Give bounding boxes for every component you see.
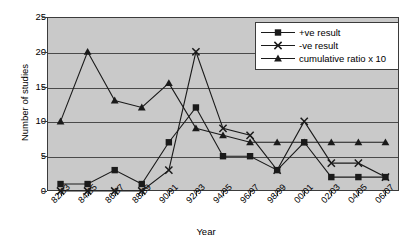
chart-root: Number of studies Year 0510152025 82/838…: [0, 0, 412, 247]
legend: +ve result-ve resultcumulative ratio x 1…: [255, 22, 399, 70]
data-point: [247, 153, 253, 159]
legend-item-3[interactable]: cumulative ratio x 10: [261, 52, 393, 65]
x-axis-title: Year: [0, 226, 412, 237]
legend-label: cumulative ratio x 10: [295, 53, 386, 64]
data-point: [355, 174, 361, 180]
legend-label: -ve result: [295, 40, 338, 51]
data-point: [193, 104, 199, 110]
data-point: [57, 181, 63, 187]
legend-item-2[interactable]: -ve result: [261, 39, 393, 52]
data-point: [220, 153, 226, 159]
data-point: [328, 174, 334, 180]
data-point: [192, 48, 199, 55]
data-point: [111, 97, 119, 104]
y-tick-mark: [42, 191, 47, 192]
data-point: [219, 125, 226, 132]
series-2: [57, 48, 389, 194]
legend-marker-cross-icon: [261, 40, 295, 51]
legend-label: +ve result: [295, 27, 340, 38]
data-point: [111, 167, 117, 173]
legend-marker-square-icon: [261, 27, 295, 38]
y-axis-title: Number of studies: [19, 38, 30, 168]
data-point: [192, 124, 200, 131]
series-line: [61, 107, 386, 184]
data-point: [165, 167, 172, 174]
data-point: [84, 48, 92, 55]
legend-item-1[interactable]: +ve result: [261, 26, 393, 39]
data-point: [139, 181, 145, 187]
series-line: [61, 52, 386, 191]
data-point: [246, 132, 253, 139]
data-point: [57, 118, 65, 125]
data-point: [166, 139, 172, 145]
data-point: [165, 79, 173, 86]
series-1: [57, 104, 388, 187]
legend-marker-triangle-icon: [261, 53, 295, 64]
data-point: [84, 181, 90, 187]
data-point: [301, 118, 308, 125]
